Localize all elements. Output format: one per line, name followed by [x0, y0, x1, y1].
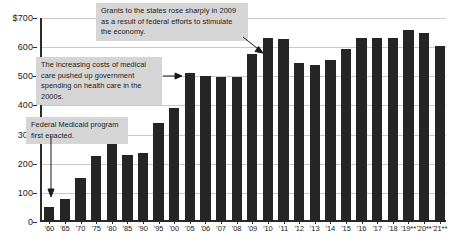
bar	[247, 54, 257, 222]
x-tick-mark	[362, 220, 363, 224]
bar	[435, 46, 445, 222]
x-tick-mark	[96, 220, 97, 224]
y-tick-label: 200	[18, 159, 33, 169]
bar	[122, 155, 132, 222]
annotation-medical: The increasing costs of medical care pus…	[36, 57, 162, 105]
y-tick-mark	[33, 47, 37, 48]
bar	[388, 38, 398, 222]
bar	[153, 123, 163, 222]
x-tick-mark	[252, 220, 253, 224]
y-tick-mark	[33, 18, 37, 19]
bar	[91, 156, 101, 222]
bar	[356, 38, 366, 222]
x-tick-label: '19**	[401, 224, 416, 233]
x-tick-label: '60	[45, 224, 54, 233]
bar	[169, 108, 179, 222]
x-tick-mark	[112, 220, 113, 224]
x-tick-label: '90	[138, 224, 147, 233]
x-tick-label: '11	[279, 224, 288, 233]
x-tick-label: '95	[154, 224, 163, 233]
y-tick-label: 600	[18, 42, 33, 52]
x-tick-label: '05	[185, 224, 194, 233]
x-axis: '60'65'70'75'80'85'90'95'00'05'06'07'08'…	[40, 224, 446, 240]
x-tick-mark	[346, 220, 347, 224]
x-tick-label: '15	[341, 224, 350, 233]
x-tick-mark	[268, 220, 269, 224]
x-tick-label: '12	[294, 224, 303, 233]
x-tick-label: '08	[232, 224, 241, 233]
y-tick-mark	[33, 164, 37, 165]
x-tick-label: '00	[169, 224, 178, 233]
bar	[310, 65, 320, 222]
x-tick-label: '75	[91, 224, 100, 233]
bar	[372, 38, 382, 222]
x-tick-label: '20**	[417, 224, 432, 233]
x-tick-mark	[377, 220, 378, 224]
x-tick-mark	[174, 220, 175, 224]
x-tick-mark	[65, 220, 66, 224]
bar	[341, 49, 351, 222]
x-tick-label: '80	[107, 224, 116, 233]
bar	[419, 33, 429, 222]
x-tick-mark	[408, 220, 409, 224]
bar	[232, 77, 242, 222]
x-tick-mark	[315, 220, 316, 224]
x-tick-label: '07	[216, 224, 225, 233]
x-tick-mark	[330, 220, 331, 224]
y-tick-label: 400	[18, 100, 33, 110]
bar	[138, 153, 148, 222]
x-tick-mark	[299, 220, 300, 224]
y-tick-label: 500	[18, 71, 33, 81]
x-tick-mark	[393, 220, 394, 224]
x-tick-mark	[205, 220, 206, 224]
y-tick-label: 100	[18, 188, 33, 198]
annotation-grants: Grants to the states rose sharply in 200…	[96, 3, 248, 41]
x-tick-label: '13	[310, 224, 319, 233]
bar	[263, 38, 273, 222]
x-tick-label: '17	[372, 224, 381, 233]
x-tick-mark	[237, 220, 238, 224]
bar-chart: 0100200300400500600$700 '60'65'70'75'80'…	[0, 0, 452, 249]
x-tick-mark	[440, 220, 441, 224]
y-tick-label: $700	[13, 13, 33, 23]
x-tick-label: '10	[263, 224, 272, 233]
x-tick-label: '18	[388, 224, 397, 233]
x-tick-mark	[143, 220, 144, 224]
x-tick-mark	[127, 220, 128, 224]
x-tick-mark	[49, 220, 50, 224]
y-tick-mark	[33, 222, 37, 223]
x-tick-mark	[159, 220, 160, 224]
x-tick-label: '70	[76, 224, 85, 233]
x-tick-mark	[190, 220, 191, 224]
x-tick-label: '09	[248, 224, 257, 233]
bar	[75, 178, 85, 222]
bar	[325, 60, 335, 222]
bar	[294, 63, 304, 222]
bar	[185, 73, 195, 222]
x-tick-mark	[81, 220, 82, 224]
bar	[60, 199, 70, 222]
y-tick-mark	[33, 193, 37, 194]
bar	[216, 77, 226, 222]
x-tick-label: '21**	[432, 224, 447, 233]
bar	[200, 76, 210, 222]
bar	[107, 140, 117, 222]
y-tick-mark	[33, 105, 37, 106]
x-tick-label: '14	[326, 224, 335, 233]
x-tick-mark	[221, 220, 222, 224]
x-tick-mark	[424, 220, 425, 224]
x-tick-label: '85	[123, 224, 132, 233]
annotation-medicaid: Federal Medicaid program first enacted.	[26, 117, 128, 144]
bar	[278, 39, 288, 222]
bar	[403, 30, 413, 222]
x-tick-label: '16	[357, 224, 366, 233]
x-tick-label: '65	[60, 224, 69, 233]
x-tick-label: '06	[201, 224, 210, 233]
x-tick-mark	[284, 220, 285, 224]
